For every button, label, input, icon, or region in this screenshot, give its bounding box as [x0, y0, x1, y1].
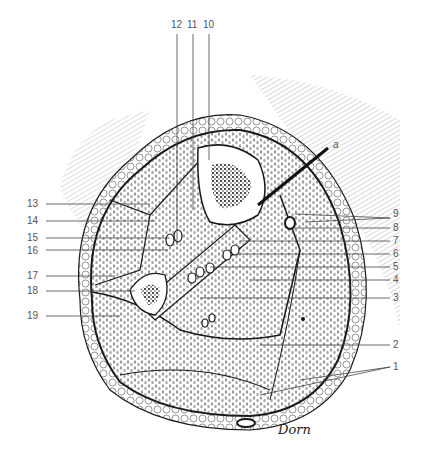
label-18: 18 — [27, 286, 38, 296]
label-9: 9 — [393, 209, 399, 219]
anatomy-drawing — [0, 0, 427, 462]
label-12: 12 — [171, 20, 182, 30]
label-15: 15 — [27, 233, 38, 243]
label-4: 4 — [393, 275, 399, 285]
label-a: a — [333, 140, 339, 150]
label-14: 14 — [27, 216, 38, 226]
leg-cross-section-figure: a 1 2 3 4 5 6 7 8 9 10 11 12 13 14 15 16… — [0, 0, 427, 462]
label-13: 13 — [27, 199, 38, 209]
label-3: 3 — [393, 293, 399, 303]
label-1: 1 — [393, 362, 399, 372]
label-5: 5 — [393, 262, 399, 272]
label-6: 6 — [393, 249, 399, 259]
label-7: 7 — [393, 236, 399, 246]
artist-signature: Dorn — [278, 422, 311, 437]
label-10: 10 — [203, 20, 214, 30]
label-16: 16 — [27, 246, 38, 256]
label-19: 19 — [27, 311, 38, 321]
label-8: 8 — [393, 223, 399, 233]
label-17: 17 — [27, 271, 38, 281]
label-2: 2 — [393, 340, 399, 350]
label-11: 11 — [187, 20, 197, 30]
